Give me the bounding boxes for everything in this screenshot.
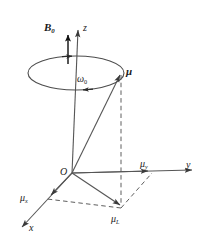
muL-vector (72, 173, 120, 205)
mux-label: μx (20, 193, 28, 204)
omega0-label: ω0 (77, 74, 87, 85)
diagram-canvas (0, 0, 209, 245)
projection-dashed-lines (47, 173, 152, 208)
origin-label: O (60, 167, 67, 177)
z-axis-label: z (83, 23, 87, 33)
precession-diagram: B0 z ω0 μ O μy y μx x μL (0, 0, 209, 245)
y-axis-label: y (186, 160, 190, 170)
mu-vector-label: μ (126, 66, 132, 77)
b0-field-label: B0 (44, 22, 55, 35)
muy-label: μy (140, 159, 148, 170)
x-axis-label: x (29, 223, 33, 233)
muL-label: μL (111, 214, 119, 225)
muy-component-vector (72, 171, 148, 173)
z-axis (72, 30, 78, 173)
